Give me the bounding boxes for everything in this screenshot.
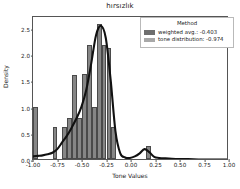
- x-axis-label: Tone Values: [32, 172, 228, 179]
- x-tick-mark: [33, 159, 34, 162]
- legend-swatch-icon: [144, 30, 155, 35]
- x-tick-mark: [155, 159, 156, 162]
- legend-entry: weighted avg.: -0.403: [144, 29, 230, 37]
- legend-label: weighted avg.: -0.403: [158, 29, 217, 37]
- legend: Method weighted avg.: -0.403tone distrib…: [140, 17, 234, 48]
- density-plot-figure: hırsızlık Density 0.00.51.01.52.02.5 -1.…: [0, 0, 240, 189]
- x-tick-mark: [82, 159, 83, 162]
- chart-title: hırsızlık: [0, 2, 240, 11]
- x-tick-mark: [180, 159, 181, 162]
- legend-label: tone distribution: -0.974: [158, 36, 224, 44]
- y-tick-mark: [31, 108, 34, 109]
- x-tick-mark: [204, 159, 205, 162]
- y-tick-mark: [31, 134, 34, 135]
- legend-entries: weighted avg.: -0.403tone distribution: …: [144, 29, 230, 44]
- legend-swatch-icon: [144, 38, 155, 43]
- y-axis-label: Density: [2, 65, 9, 88]
- y-tick-mark: [31, 56, 34, 57]
- y-tick-mark: [31, 30, 34, 31]
- legend-entry: tone distribution: -0.974: [144, 36, 230, 44]
- x-tick-mark: [106, 159, 107, 162]
- y-tick-mark: [31, 82, 34, 83]
- x-tick-mark: [57, 159, 58, 162]
- x-tick-mark: [229, 159, 230, 162]
- x-tick-mark: [131, 159, 132, 162]
- legend-title: Method: [144, 20, 230, 27]
